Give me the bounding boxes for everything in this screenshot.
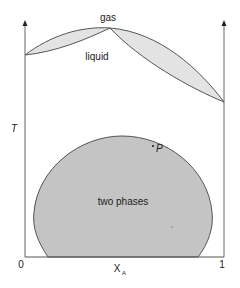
y-axis-label: T (11, 123, 18, 134)
left-axis-arrow-icon (23, 20, 28, 26)
right-axis-arrow-icon (222, 20, 227, 26)
phase-diagram: P gas liquid two phases T 0 1 X A (0, 0, 240, 288)
speck (171, 226, 173, 228)
gas-label: gas (100, 12, 116, 23)
x-tick-0: 0 (18, 259, 24, 270)
liquid-label: liquid (85, 51, 108, 62)
point-p-label: P (156, 143, 163, 154)
x-axis-label-subscript: A (122, 270, 126, 276)
right-coexistence-lens (110, 28, 224, 102)
point-p-marker (152, 145, 154, 147)
two-phase-label: two phases (98, 196, 149, 207)
x-tick-1: 1 (219, 259, 225, 270)
x-axis-label: X (114, 263, 121, 274)
